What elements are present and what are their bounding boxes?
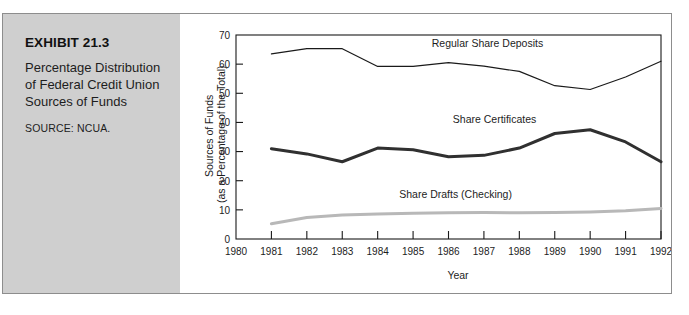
x-tick-label: 1991	[614, 246, 637, 257]
y-axis-title-line1: Sources of Funds	[203, 95, 215, 177]
caption-panel: EXHIBIT 21.3 Percentage Distribution of …	[3, 14, 180, 293]
caption-text-block: EXHIBIT 21.3 Percentage Distribution of …	[25, 36, 167, 134]
chart-area: Sources of Funds (as a Percentage of the…	[180, 14, 671, 293]
plot-frame	[236, 35, 661, 239]
series-line	[271, 49, 661, 90]
x-tick-label: 1984	[367, 246, 390, 257]
x-tick-label: 1980	[225, 246, 248, 257]
y-tick-label: 20	[219, 176, 231, 187]
series-line	[271, 130, 661, 162]
series-line	[271, 208, 661, 223]
series-label: Share Certificates	[453, 113, 536, 125]
exhibit-frame: EXHIBIT 21.3 Percentage Distribution of …	[2, 13, 672, 294]
x-tick-label: 1989	[544, 246, 567, 257]
y-tick-label: 10	[219, 205, 231, 216]
x-tick-label: 1990	[579, 246, 602, 257]
x-axis-title: Year	[447, 269, 469, 281]
exhibit-source: SOURCE: NCUA.	[25, 122, 167, 134]
y-tick-label: 40	[219, 117, 231, 128]
x-tick-label: 1986	[437, 246, 460, 257]
exhibit-title: Percentage Distribution of Federal Credi…	[25, 59, 167, 110]
x-tick-label: 1981	[260, 246, 283, 257]
x-tick-label: 1982	[296, 246, 319, 257]
x-tick-label: 1988	[508, 246, 531, 257]
plot-root: 0102030405060701980198119821983198419851…	[219, 30, 671, 257]
exhibit-number: EXHIBIT 21.3	[25, 36, 167, 51]
x-tick-label: 1983	[331, 246, 354, 257]
x-tick-label: 1985	[402, 246, 425, 257]
y-tick-label: 70	[219, 30, 231, 41]
line-chart: Sources of Funds (as a Percentage of the…	[180, 14, 671, 293]
y-tick-label: 60	[219, 59, 231, 70]
series-label: Share Drafts (Checking)	[399, 188, 512, 200]
x-tick-label: 1987	[473, 246, 496, 257]
x-tick-label: 1992	[650, 246, 671, 257]
series-label: Regular Share Deposits	[432, 37, 543, 49]
y-tick-label: 30	[219, 146, 231, 157]
y-tick-label: 50	[219, 88, 231, 99]
y-tick-label: 0	[224, 234, 230, 245]
